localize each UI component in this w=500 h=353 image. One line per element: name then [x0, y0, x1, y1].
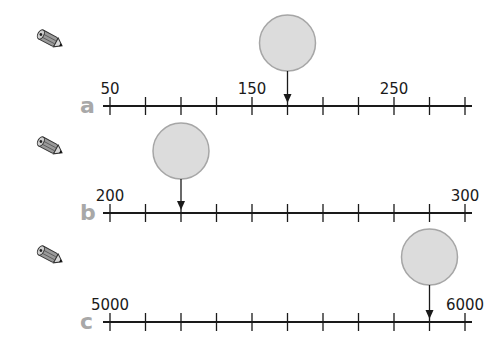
tick-label: 150: [238, 80, 267, 98]
answer-circle[interactable]: [153, 123, 209, 179]
arrow-head-icon: [284, 94, 292, 103]
tick-label: 5000: [91, 296, 129, 314]
arrow-head-icon: [426, 310, 434, 319]
problem-b: b200300: [36, 123, 479, 225]
tick-label: 300: [451, 187, 480, 205]
tick-label: 250: [380, 80, 409, 98]
tick-label: 200: [96, 187, 125, 205]
tick-label: 6000: [446, 296, 484, 314]
problem-letter-a: a: [80, 93, 95, 118]
pencil-icon: [36, 136, 65, 158]
answer-circle[interactable]: [402, 229, 458, 285]
problem-c: c50006000: [36, 229, 484, 334]
answer-circle[interactable]: [260, 15, 316, 71]
number-line-worksheet: a50150250b200300c50006000: [0, 0, 500, 353]
problem-letter-b: b: [80, 200, 96, 225]
tick-label: 50: [100, 80, 119, 98]
problem-a: a50150250: [36, 15, 472, 118]
arrow-head-icon: [177, 201, 185, 210]
pencil-icon: [36, 29, 65, 51]
pencil-icon: [36, 245, 65, 267]
